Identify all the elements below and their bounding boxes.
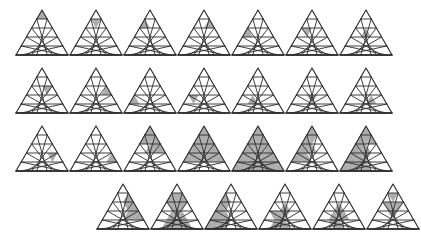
triangle-svg <box>176 66 232 115</box>
shaded-unit-triangle <box>145 126 155 135</box>
triangle-figure <box>68 124 124 173</box>
triangle-figure <box>230 66 286 115</box>
triangle-svg <box>122 66 178 115</box>
triangle-svg <box>14 8 70 57</box>
triangle-outline <box>286 10 338 55</box>
triangle-svg <box>284 8 340 57</box>
shaded-unit-triangle <box>253 126 263 135</box>
figure-row <box>0 66 392 117</box>
triangle-svg <box>14 66 70 115</box>
triangle-figure <box>338 8 394 57</box>
triangle-figure <box>176 124 232 173</box>
triangle-svg <box>149 182 205 231</box>
triangle-svg <box>68 8 124 57</box>
triangle-figure <box>230 8 286 57</box>
triangle-svg <box>284 124 340 173</box>
triangle-svg <box>365 182 421 231</box>
triangle-figure <box>176 66 232 115</box>
shaded-unit-triangle <box>199 126 209 135</box>
triangle-grid-lines <box>16 77 68 113</box>
triangle-svg <box>176 8 232 57</box>
triangle-outline <box>16 68 68 113</box>
triangle-grid-lines <box>286 77 338 113</box>
triangle-grid-lines <box>232 77 284 113</box>
triangle-figure <box>14 124 70 173</box>
triangle-svg <box>14 124 70 173</box>
triangle-grid-lines <box>124 77 176 113</box>
triangle-svg <box>95 182 151 231</box>
triangle-outline <box>97 184 149 229</box>
triangle-outline <box>70 126 122 171</box>
triangle-figure <box>203 182 259 231</box>
triangle-svg <box>338 8 394 57</box>
shaded-unit-triangle <box>307 126 317 135</box>
triangle-figure <box>122 66 178 115</box>
triangle-grid-lines <box>70 77 122 113</box>
triangle-svg <box>311 182 367 231</box>
shaded-unit-triangle <box>129 95 139 104</box>
triangle-svg <box>68 124 124 173</box>
triangle-figure <box>338 124 394 173</box>
triangle-svg <box>122 124 178 173</box>
triangle-outline <box>16 126 68 171</box>
triangle-grid-lines <box>178 19 230 55</box>
triangle-svg <box>68 66 124 115</box>
triangle-figure <box>95 182 151 231</box>
shaded-unit-triangle <box>106 153 116 162</box>
triangle-outline <box>340 68 392 113</box>
triangle-figure <box>68 8 124 57</box>
triangle-figure <box>284 66 340 115</box>
triangle-svg <box>284 66 340 115</box>
shaded-unit-triangle <box>361 126 371 135</box>
figure-row <box>0 182 392 233</box>
triangle-figure <box>149 182 205 231</box>
triangle-figure <box>122 124 178 173</box>
figure-row <box>0 8 392 59</box>
triangle-svg <box>176 124 232 173</box>
triangle-outline <box>70 10 122 55</box>
figure-row <box>0 124 392 175</box>
triangle-outline <box>70 68 122 113</box>
triangle-figure <box>176 8 232 57</box>
triangle-svg <box>257 182 313 231</box>
triangle-grid-lines <box>16 19 68 55</box>
triangle-figure <box>365 182 421 231</box>
triangle-figure <box>14 66 70 115</box>
triangle-grid-lines <box>178 77 230 113</box>
triangle-figure <box>14 8 70 57</box>
triangle-figure <box>257 182 313 231</box>
shaded-unit-triangle <box>37 10 47 19</box>
triangle-svg <box>230 8 286 57</box>
triangle-figure <box>68 66 124 115</box>
triangle-figure <box>338 66 394 115</box>
triangle-grid-lines <box>124 19 176 55</box>
triangle-figure <box>122 8 178 57</box>
triangle-svg <box>122 8 178 57</box>
triangle-grid-lines <box>16 135 68 171</box>
triangle-figure <box>311 182 367 231</box>
triangle-grid-lines <box>70 135 122 171</box>
triangle-figure <box>230 124 286 173</box>
triangle-svg <box>203 182 259 231</box>
triangle-grid-lines <box>340 77 392 113</box>
triangle-figure <box>284 124 340 173</box>
triangle-grid-lines <box>97 193 149 229</box>
triangle-outline <box>178 68 230 113</box>
triangle-svg <box>338 66 394 115</box>
triangle-outline <box>232 68 284 113</box>
triangle-outline <box>124 68 176 113</box>
triangle-svg <box>230 66 286 115</box>
triangle-grid-lines <box>340 19 392 55</box>
triangle-outline <box>232 10 284 55</box>
triangle-grid-lines <box>232 19 284 55</box>
triangle-outline <box>124 10 176 55</box>
triangle-grid-lines <box>286 19 338 55</box>
triangle-svg <box>338 124 394 173</box>
triangle-outline <box>178 10 230 55</box>
triangle-figure <box>284 8 340 57</box>
triangle-outline <box>286 68 338 113</box>
triangle-svg <box>230 124 286 173</box>
